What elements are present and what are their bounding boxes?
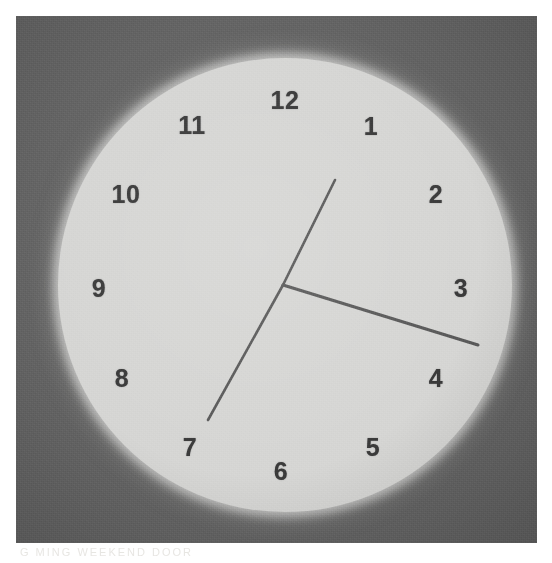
clock-numeral-10: 10	[112, 180, 141, 209]
clock-numeral-1: 1	[364, 112, 378, 141]
clock-numeral-11: 11	[178, 111, 205, 140]
clock-numeral-12: 12	[271, 86, 300, 115]
clock-numeral-7: 7	[183, 433, 197, 462]
scan-ghost-text: G MING WEEKEND DOOR	[20, 546, 380, 559]
photograph-plate: 121234567891011	[16, 16, 537, 543]
clock-numeral-5: 5	[366, 433, 380, 462]
clock-numeral-4: 4	[429, 364, 443, 393]
clock-numeral-6: 6	[274, 457, 288, 486]
clock-numeral-9: 9	[92, 274, 106, 303]
clock-numeral-2: 2	[429, 180, 443, 209]
clock-numeral-8: 8	[115, 364, 129, 393]
clock-photo-scene: 121234567891011 G MING WEEKEND DOOR	[0, 0, 552, 563]
clock-face	[58, 58, 512, 512]
clock-numeral-3: 3	[454, 274, 468, 303]
